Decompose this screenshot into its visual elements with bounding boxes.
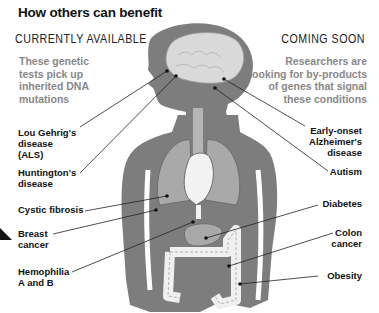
triangle-marker-icon [0,228,12,240]
label-colon-cancer: Colon cancer [331,227,362,249]
label-hemophilia: Hemophilia A and B [18,266,69,288]
label-als: Lou Gehrig's disease (ALS) [18,127,76,160]
label-autism: Autism [330,166,362,177]
label-alzheimers: Early-onset Alzheimer's disease [309,125,362,158]
label-cystic-fibrosis: Cystic fibrosis [18,204,83,215]
label-obesity: Obesity [327,270,362,281]
label-huntingtons: Huntington's disease [18,167,76,189]
label-diabetes: Diabetes [322,198,362,209]
label-breast-cancer: Breast cancer [18,228,49,250]
